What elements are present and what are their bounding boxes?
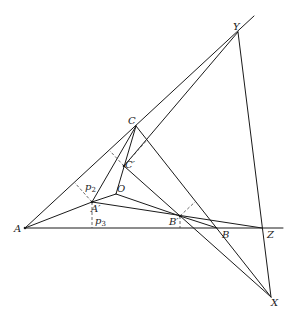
line-o-b1	[116, 194, 180, 216]
line-y-x	[238, 32, 271, 297]
label-y: Y	[233, 22, 240, 32]
line-c1-x	[124, 166, 271, 297]
label-c: C	[128, 116, 136, 126]
label-p3: p3	[95, 216, 106, 228]
label-p3-sub: 3	[101, 220, 105, 228]
label-p2-sub: 2	[91, 186, 95, 194]
label-b: B	[222, 230, 229, 240]
label-c-prime: C′	[125, 160, 135, 170]
point-a	[24, 227, 27, 230]
label-a: A	[14, 224, 21, 234]
label-x: X	[271, 298, 278, 308]
perp-b1-cb	[180, 201, 196, 216]
perp-c1-ac	[110, 151, 124, 166]
line-c1-y	[124, 32, 238, 166]
label-p2: p2	[85, 182, 96, 194]
line-a-y	[25, 16, 254, 228]
label-a-prime: A′	[91, 204, 101, 214]
desargues-diagram: A B C O A′ B′ C′ X Y Z p2 p3	[0, 0, 296, 327]
line-a-a1	[25, 202, 92, 228]
diagram-lines	[0, 0, 296, 327]
point-b1	[179, 215, 182, 218]
label-b-prime: B′	[169, 217, 179, 227]
label-z: Z	[267, 230, 274, 240]
label-o: O	[117, 184, 125, 194]
